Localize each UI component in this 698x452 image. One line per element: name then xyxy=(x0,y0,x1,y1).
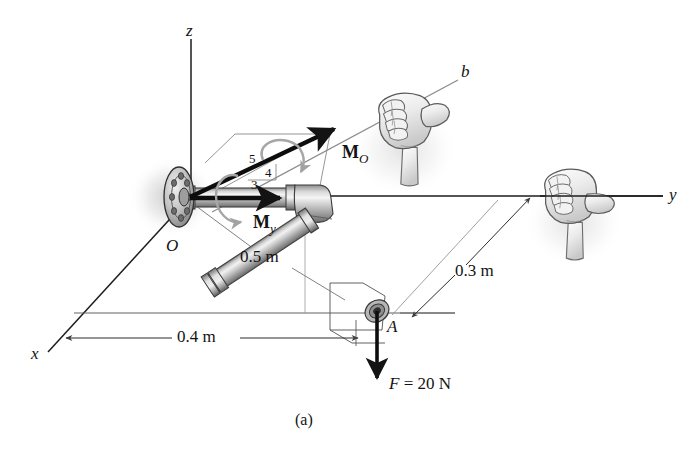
moment-y-subscript: y xyxy=(270,221,276,236)
bolt-hole xyxy=(171,208,176,215)
moment-y-label: My xyxy=(253,213,276,235)
dim-03-guide xyxy=(392,200,498,315)
hand-b-forearm xyxy=(401,148,418,186)
dim-05-leader-origin xyxy=(196,206,258,252)
dim-05-leader xyxy=(292,268,345,300)
slope-horizontal-label: 4 xyxy=(265,166,272,179)
z-axis-label: z xyxy=(186,22,193,39)
bolt-hole xyxy=(184,208,189,215)
moment-figure: z y x b O A MO My 5 4 3 0.5 m 0.4 m 0.3 … xyxy=(0,0,698,452)
bolt-hole xyxy=(178,215,183,222)
moment-o-subscript: O xyxy=(359,151,368,166)
b-axis-label: b xyxy=(461,63,470,80)
dim-03-line-lower xyxy=(412,275,455,317)
bolt-hole xyxy=(171,180,176,187)
point-a-label: A xyxy=(387,318,397,335)
dim-04-label: 0.4 m xyxy=(177,328,216,345)
figure-canvas xyxy=(0,0,698,452)
slope-frame-diag xyxy=(205,134,235,163)
bolt-hole xyxy=(178,173,183,180)
dim-03-label: 0.3 m xyxy=(455,262,494,279)
y-axis-label: y xyxy=(669,186,677,203)
projection-box-5 xyxy=(330,330,352,343)
dim-03-line-upper xyxy=(466,198,530,265)
finger xyxy=(388,128,407,140)
flange-hub xyxy=(179,188,189,206)
flange-assembly xyxy=(164,167,194,227)
force-label: F = 20 N xyxy=(389,375,451,392)
pipe-collar-right xyxy=(286,185,295,210)
hand-y-forearm xyxy=(566,222,583,260)
figure-caption: (a) xyxy=(295,412,313,428)
force-symbol: F xyxy=(389,374,399,393)
moment-y-symbol: M xyxy=(253,212,270,232)
slope-vertical-label: 3 xyxy=(251,178,258,191)
slope-hypotenuse-label: 5 xyxy=(249,152,256,165)
dim-05-label: 0.5 m xyxy=(240,248,279,265)
x-axis-label: x xyxy=(31,345,39,362)
force-unit: N xyxy=(439,374,451,393)
projection-box-3 xyxy=(363,283,385,296)
force-equals: = xyxy=(404,374,414,393)
finger xyxy=(554,203,573,215)
bolt-hole xyxy=(184,180,189,187)
moment-o-symbol: M xyxy=(342,142,359,162)
moment-o-label: MO xyxy=(342,143,368,165)
force-magnitude: 20 xyxy=(417,374,434,393)
dim-03-group xyxy=(392,198,530,317)
bolt-hole xyxy=(169,194,174,201)
origin-label: O xyxy=(166,237,178,254)
